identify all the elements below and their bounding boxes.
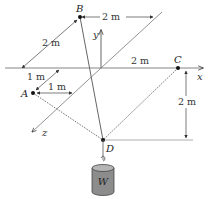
- point-C: [176, 66, 180, 70]
- dim-label-origin-C: 2 m: [131, 55, 149, 66]
- statics-diagram: W B A C D x y z 2 m 2 m 2 m 2 m 1 m 1 m: [0, 0, 209, 199]
- cable-BD: [80, 17, 103, 140]
- point-A: [31, 91, 35, 95]
- label-x-axis: x: [197, 71, 203, 82]
- dim-label-C-vertical: 2 m: [178, 96, 196, 107]
- dim-label-A-horizontal: 1 m: [48, 81, 66, 92]
- label-D: D: [105, 143, 114, 154]
- cable-CD: [103, 68, 178, 140]
- label-y-axis: y: [92, 29, 99, 40]
- point-B: [78, 15, 82, 19]
- weight-W: W: [92, 165, 114, 196]
- weight-label: W: [98, 176, 109, 187]
- dim-label-B-horizontal: 2 m: [102, 11, 120, 22]
- dim-label-B-diagonal: 2 m: [42, 37, 60, 48]
- label-C: C: [174, 54, 182, 65]
- label-z-axis: z: [41, 127, 48, 138]
- label-B: B: [75, 3, 83, 14]
- label-A: A: [20, 88, 28, 99]
- dim-label-A-diagonal: 1 m: [27, 71, 45, 82]
